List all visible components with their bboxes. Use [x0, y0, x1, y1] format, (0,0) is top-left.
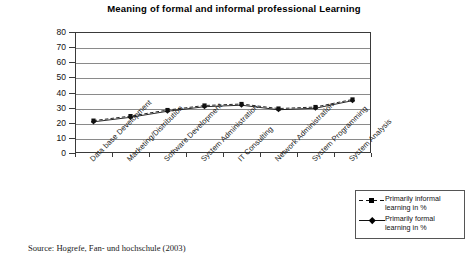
figure-caption: Source: Hogrefe, Fan- und hochschule (20…: [28, 243, 186, 253]
gridline: [76, 48, 370, 49]
x-axis-tick-mark: [149, 153, 150, 157]
y-axis-tick-label: 60: [57, 58, 66, 66]
y-axis-tick-label: 70: [57, 43, 66, 51]
legend-item-informal[interactable]: Primarily informal learning in %: [359, 195, 462, 212]
legend-label-informal-line2: learning in %: [385, 203, 427, 212]
legend-label-informal: Primarily informal learning in %: [385, 195, 441, 212]
chart-title: Meaning of formal and informal professio…: [0, 3, 468, 14]
gridline: [76, 63, 370, 64]
y-axis-tick-label: 10: [57, 134, 66, 142]
gridline: [76, 94, 370, 95]
x-axis-tick-mark: [186, 153, 187, 157]
y-axis: 80706050403020100: [0, 32, 75, 153]
y-axis-tick-label: 40: [57, 89, 66, 97]
legend-marker-square-dashed-icon: [359, 195, 385, 206]
y-axis-tick-label: 50: [57, 73, 66, 81]
x-axis-tick-mark: [371, 153, 372, 157]
x-axis-tick-mark: [260, 153, 261, 157]
legend-item-formal[interactable]: Primarily formal learning in %: [359, 215, 462, 232]
legend-label-formal-line2: learning in %: [385, 223, 427, 232]
x-axis-tick-mark: [75, 153, 76, 157]
legend-label-formal: Primarily formal learning in %: [385, 215, 435, 232]
legend-marker-diamond-solid-icon: [359, 215, 385, 226]
x-axis-tick-mark: [334, 153, 335, 157]
gridline: [76, 78, 370, 79]
y-axis-tick-label: 20: [57, 119, 66, 127]
x-axis-tick-mark: [223, 153, 224, 157]
x-axis-tick-mark: [297, 153, 298, 157]
legend: Primarily informal learning in % Primari…: [355, 190, 465, 239]
x-axis-tick-mark: [112, 153, 113, 157]
y-axis-tick-label: 80: [57, 28, 66, 36]
y-axis-tick-label: 30: [57, 104, 66, 112]
